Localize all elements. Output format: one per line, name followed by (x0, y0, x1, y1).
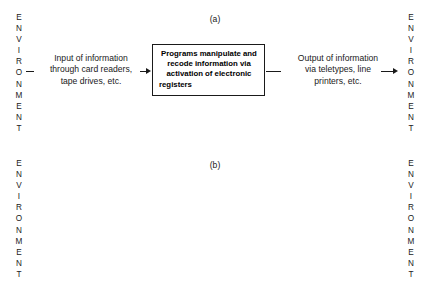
environment-letter: V (10, 180, 28, 191)
environment-letter: N (402, 169, 420, 180)
input-flow-line: Input of information (34, 53, 148, 64)
environment-letter: I (10, 191, 28, 202)
environment-letter: N (402, 112, 420, 123)
process-box-a: Programs manipulate and recode informati… (152, 44, 265, 96)
environment-label-right-b: E N V I R O N M E N T (402, 158, 420, 280)
environment-letter: E (402, 101, 420, 112)
environment-letter: V (402, 180, 420, 191)
environment-letter: N (10, 79, 28, 90)
output-flow-line: Output of information (281, 53, 395, 64)
panel-caption-a: (a) (0, 14, 430, 24)
environment-letter: V (402, 34, 420, 45)
environment-letter: T (402, 269, 420, 280)
environment-letter: N (402, 79, 420, 90)
output-flow-line: via teletypes, line (281, 64, 395, 75)
environment-letter: R (402, 56, 420, 67)
arrowhead-to-environment-a (393, 68, 398, 74)
environment-letter: I (402, 45, 420, 56)
panel-a: E N V I R O N M E N T E N V I R O N M E … (0, 0, 430, 146)
process-box-line: activation of electronic (159, 69, 259, 79)
environment-letter: O (10, 67, 28, 78)
environment-letter: E (10, 247, 28, 258)
environment-letter: R (10, 202, 28, 213)
panel-caption-b: (b) (0, 160, 430, 170)
environment-letter: O (402, 213, 420, 224)
arrowhead-into-process-a (146, 68, 151, 74)
environment-label-left-b: E N V I R O N M E N T (10, 158, 28, 280)
environment-letter: M (402, 90, 420, 101)
environment-letter: O (402, 67, 420, 78)
environment-letter: I (10, 45, 28, 56)
process-box-line: registers (159, 80, 259, 90)
environment-letter: T (402, 123, 420, 134)
process-box-line: Programs manipulate and (159, 49, 259, 59)
panel-b: E N V I R O N M E N T E N V I R O N M E … (0, 146, 430, 292)
environment-letter: N (10, 112, 28, 123)
environment-label-right-a: E N V I R O N M E N T (402, 12, 420, 134)
environment-letter: E (10, 101, 28, 112)
environment-letter: R (402, 202, 420, 213)
environment-letter: N (10, 258, 28, 269)
information-processing-diagram: E N V I R O N M E N T E N V I R O N M E … (0, 0, 430, 292)
environment-letter: O (10, 213, 28, 224)
environment-letter: N (402, 258, 420, 269)
connector-out-of-process-a (266, 71, 281, 72)
environment-letter: I (402, 191, 420, 202)
input-flow-line: through card readers, (34, 64, 148, 75)
output-flow-label-a: Output of information via teletypes, lin… (281, 53, 395, 87)
environment-letter: E (402, 247, 420, 258)
environment-letter: V (10, 34, 28, 45)
environment-label-left-a: E N V I R O N M E N T (10, 12, 28, 134)
output-flow-line: printers, etc. (281, 76, 395, 87)
environment-letter: M (402, 236, 420, 247)
environment-letter: T (10, 269, 28, 280)
input-flow-line: tape drives, etc. (34, 76, 148, 87)
environment-letter: N (10, 23, 28, 34)
environment-letter: N (10, 225, 28, 236)
environment-letter: N (10, 169, 28, 180)
environment-letter: M (10, 90, 28, 101)
environment-letter: N (402, 23, 420, 34)
environment-letter: N (402, 225, 420, 236)
input-flow-label-a: Input of information through card reader… (34, 53, 148, 87)
connector-from-environment-a (26, 71, 34, 72)
environment-letter: T (10, 123, 28, 134)
environment-letter: M (10, 236, 28, 247)
process-box-line: recode information via (159, 59, 259, 69)
environment-letter: R (10, 56, 28, 67)
